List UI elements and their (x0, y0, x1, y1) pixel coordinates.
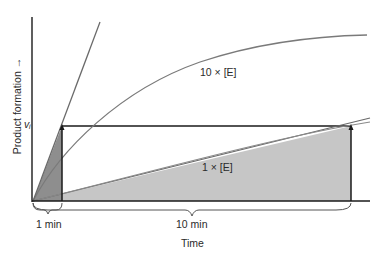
y-axis-label: Product formation → (11, 51, 23, 161)
brace-10min (33, 203, 351, 216)
initial-slope-10x (33, 22, 100, 201)
curve-1x-label: 1 × [E] (202, 161, 233, 173)
vi-label: vᵢ (24, 118, 31, 130)
interval-1min-label: 1 min (36, 218, 62, 230)
interval-10min-label: 10 min (176, 218, 208, 230)
curve-10x-label: 10 × [E] (200, 66, 236, 78)
x-axis-label: Time (181, 237, 204, 249)
